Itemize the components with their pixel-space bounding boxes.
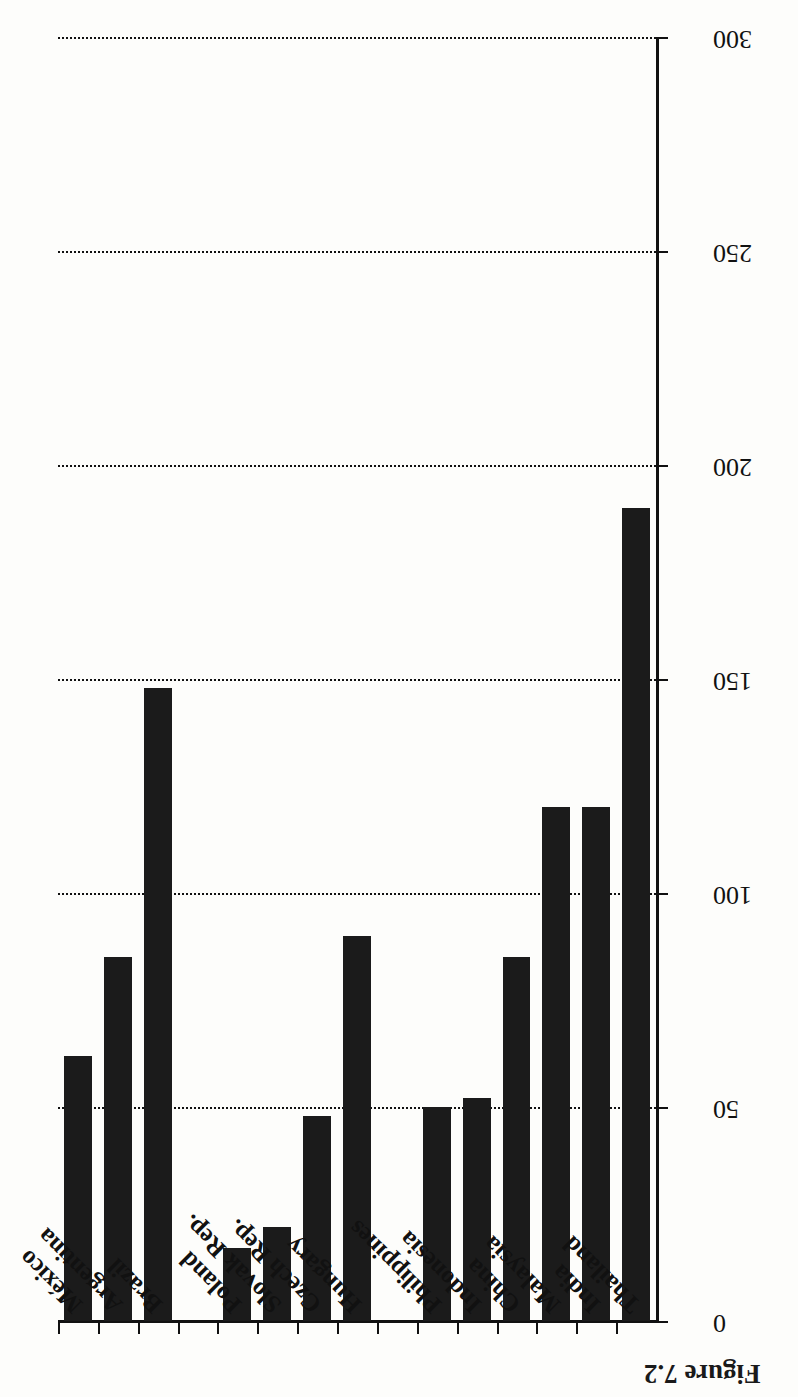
bar bbox=[343, 936, 371, 1321]
value-tick-label: 0 bbox=[713, 1308, 783, 1338]
value-tick bbox=[656, 679, 668, 681]
category-tick bbox=[217, 1323, 219, 1334]
category-tick bbox=[377, 1323, 379, 1334]
gridline bbox=[58, 679, 656, 681]
category-tick bbox=[616, 1323, 618, 1334]
category-tick bbox=[257, 1323, 259, 1334]
value-tick bbox=[656, 1321, 668, 1323]
category-tick bbox=[178, 1323, 180, 1334]
value-tick-label: 150 bbox=[713, 666, 783, 696]
category-tick bbox=[497, 1323, 499, 1334]
value-axis-line bbox=[656, 39, 659, 1323]
bar bbox=[144, 688, 172, 1321]
category-tick bbox=[576, 1323, 578, 1334]
category-tick bbox=[58, 1323, 60, 1334]
bar-chart: 050100150200250300 ThailandIndiaMalaysia… bbox=[58, 39, 656, 1323]
value-tick bbox=[656, 1107, 668, 1109]
rotated-chart-container: 050100150200250300 ThailandIndiaMalaysia… bbox=[0, 0, 798, 1397]
gridline bbox=[58, 251, 656, 253]
category-tick bbox=[337, 1323, 339, 1334]
gridline bbox=[58, 465, 656, 467]
value-tick-label: 300 bbox=[713, 24, 783, 54]
value-tick bbox=[656, 37, 668, 39]
category-tick bbox=[297, 1323, 299, 1334]
figure-caption: Figure 7.2 bbox=[644, 1358, 761, 1389]
category-tick bbox=[457, 1323, 459, 1334]
bar bbox=[622, 508, 650, 1321]
gridline bbox=[58, 37, 656, 39]
value-tick-label: 250 bbox=[713, 238, 783, 268]
value-tick bbox=[656, 465, 668, 467]
category-tick bbox=[138, 1323, 140, 1334]
value-tick-label: 200 bbox=[713, 452, 783, 482]
value-tick-label: 100 bbox=[713, 880, 783, 910]
value-tick-label: 50 bbox=[713, 1094, 783, 1124]
category-tick bbox=[98, 1323, 100, 1334]
category-tick bbox=[417, 1323, 419, 1334]
category-tick bbox=[536, 1323, 538, 1334]
value-tick bbox=[656, 893, 668, 895]
figure-page: 050100150200250300 ThailandIndiaMalaysia… bbox=[0, 0, 798, 1397]
value-tick bbox=[656, 251, 668, 253]
